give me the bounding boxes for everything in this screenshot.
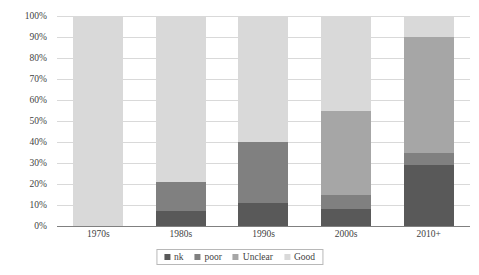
legend-swatch-icon bbox=[284, 254, 290, 260]
bar-slot bbox=[222, 16, 305, 226]
legend-item[interactable]: Unclear bbox=[233, 252, 273, 262]
bar-segment[interactable] bbox=[73, 16, 123, 226]
bar-stack[interactable] bbox=[73, 16, 123, 226]
bar-segment[interactable] bbox=[404, 16, 454, 37]
bar-segment[interactable] bbox=[321, 111, 371, 195]
bar-slot bbox=[305, 16, 388, 226]
y-axis-tick-label: 20% bbox=[30, 179, 47, 189]
y-axis-tick-label: 90% bbox=[30, 32, 47, 42]
bar-segment[interactable] bbox=[404, 153, 454, 166]
bar-segment[interactable] bbox=[156, 182, 206, 211]
bar-segment[interactable] bbox=[156, 211, 206, 226]
bar-segment[interactable] bbox=[321, 16, 371, 111]
x-axis-tick-label: 1970s bbox=[57, 229, 140, 239]
y-axis-tick-label: 40% bbox=[30, 137, 47, 147]
y-axis-tick-label: 10% bbox=[30, 200, 47, 210]
bar-segment[interactable] bbox=[404, 165, 454, 226]
x-axis-tick-label: 2010+ bbox=[387, 229, 470, 239]
y-axis-tick-label: 0% bbox=[34, 221, 47, 231]
legend-label: nk bbox=[174, 252, 184, 262]
y-axis-tick-label: 70% bbox=[30, 74, 47, 84]
bar-segment[interactable] bbox=[238, 203, 288, 226]
bar-segment[interactable] bbox=[321, 209, 371, 226]
bar-segment[interactable] bbox=[321, 195, 371, 210]
legend-item[interactable]: Good bbox=[284, 252, 315, 262]
bar-stack[interactable] bbox=[238, 16, 288, 226]
bar-slot bbox=[387, 16, 470, 226]
bars-layer bbox=[57, 16, 470, 226]
y-axis-tick-label: 100% bbox=[25, 11, 47, 21]
bar-segment[interactable] bbox=[404, 37, 454, 153]
bar-segment[interactable] bbox=[156, 16, 206, 182]
legend-swatch-icon bbox=[233, 254, 239, 260]
legend-swatch-icon bbox=[164, 254, 170, 260]
legend-item[interactable]: nk bbox=[164, 252, 184, 262]
bar-stack[interactable] bbox=[404, 16, 454, 226]
x-axis: 1970s 1980s 1990s 2000s 2010+ bbox=[57, 229, 470, 239]
stacked-bar-chart: 100% 90% 80% 70% 60% 50% 40% 30% 20% 10%… bbox=[0, 0, 479, 275]
legend-label: Good bbox=[294, 252, 315, 262]
bar-slot bbox=[140, 16, 223, 226]
x-axis-line bbox=[57, 226, 470, 227]
x-axis-tick-label: 1980s bbox=[140, 229, 223, 239]
x-axis-tick-label: 1990s bbox=[222, 229, 305, 239]
bar-stack[interactable] bbox=[321, 16, 371, 226]
y-axis-tick-label: 30% bbox=[30, 158, 47, 168]
y-axis: 100% 90% 80% 70% 60% 50% 40% 30% 20% 10%… bbox=[0, 16, 52, 226]
y-axis-tick-label: 50% bbox=[30, 116, 47, 126]
x-axis-tick-label: 2000s bbox=[305, 229, 388, 239]
y-axis-tick-label: 60% bbox=[30, 95, 47, 105]
bar-segment[interactable] bbox=[238, 142, 288, 203]
y-axis-tick-label: 80% bbox=[30, 53, 47, 63]
legend-item[interactable]: poor bbox=[194, 252, 221, 262]
chart-legend: nkpoorUnclearGood bbox=[156, 249, 323, 265]
bar-slot bbox=[57, 16, 140, 226]
bar-segment[interactable] bbox=[238, 16, 288, 142]
legend-label: poor bbox=[204, 252, 221, 262]
legend-swatch-icon bbox=[194, 254, 200, 260]
legend-label: Unclear bbox=[243, 252, 273, 262]
bar-stack[interactable] bbox=[156, 16, 206, 226]
